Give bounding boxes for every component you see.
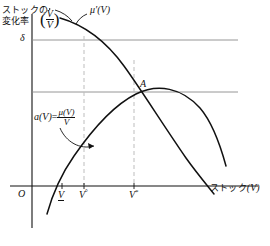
delta-label: δ [20,32,25,43]
fraction-close-paren: ) [54,12,60,27]
a-label-leader-arrowhead [88,143,94,149]
y-axis-label-line2: 変化率 [2,14,30,27]
vdot-over-v: VV [46,9,54,30]
average-product-label: a(V)=μ(V)V [34,108,75,127]
x-axis-label-var: (V) [247,182,260,193]
mu-prime-curve [60,18,214,194]
x-axis-label: ストック(V) [210,177,260,195]
fraction-numerator: V [46,9,54,20]
x-tick-v-circle: V° [79,188,88,200]
intersection-point-label: A [140,78,146,89]
fraction-denominator: V [46,20,54,30]
figure-canvas: ストックの 変化率 (VV) μ′(V) δ a(V)=μ(V)V A O V … [0,0,270,246]
y-axis-label-fraction: (VV) [40,9,59,30]
x-tick-v-star: V* [129,188,139,200]
x-axis-label-jp: ストック [210,183,247,193]
mu-over-v-fraction: μ(V)V [57,108,75,127]
mu-prime-label-text: μ′(V) [90,4,110,15]
star-mark: * [135,188,139,196]
mu-label-leader-line [76,14,87,24]
circle-mark: ° [85,188,88,196]
a-of-v-text: a(V) [34,111,52,122]
x-tick-v-underbar: V [58,189,64,201]
mu-prime-curve-label: μ′(V) [90,4,110,15]
v-denominator: V [57,118,75,127]
origin-label: O [18,188,25,199]
